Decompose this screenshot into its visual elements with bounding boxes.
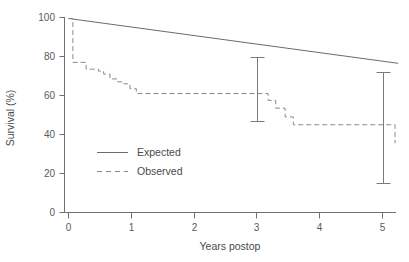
- y-tick-label-40: 40: [44, 129, 56, 140]
- y-tick-label-0: 0: [49, 207, 55, 218]
- legend: Expected Observed: [97, 146, 183, 177]
- chart-canvas: 100 80 60 40 20 0 0 1 2 3 4 5 Years post…: [0, 0, 409, 262]
- y-ticks: [60, 18, 65, 213]
- x-tick-label-3: 3: [254, 222, 260, 233]
- error-bars: [251, 57, 391, 183]
- survival-curve-figure: 100 80 60 40 20 0 0 1 2 3 4 5 Years post…: [0, 0, 409, 262]
- x-tick-label-1: 1: [129, 222, 135, 233]
- y-tick-label-20: 20: [44, 168, 56, 179]
- legend-label-observed: Observed: [137, 165, 183, 177]
- x-tick-label-0: 0: [66, 222, 72, 233]
- y-axis-title: Survival (%): [4, 90, 16, 147]
- x-ticks: [69, 213, 383, 219]
- x-tick-label-2: 2: [192, 222, 198, 233]
- y-tick-label-80: 80: [44, 51, 56, 62]
- y-tick-label-60: 60: [44, 90, 56, 101]
- x-tick-label-4: 4: [317, 222, 323, 233]
- series-line-observed: [69, 18, 396, 143]
- series-line-expected: [69, 18, 399, 63]
- y-tick-label-100: 100: [38, 12, 55, 23]
- legend-label-expected: Expected: [137, 146, 181, 158]
- x-axis-title: Years postop: [200, 240, 261, 252]
- x-tick-label-5: 5: [380, 222, 386, 233]
